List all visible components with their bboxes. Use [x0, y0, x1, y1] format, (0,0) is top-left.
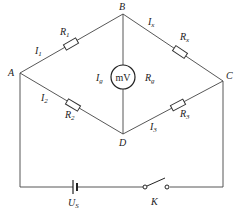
source-label: US	[68, 197, 79, 210]
wires	[20, 14, 223, 187]
resistor-rx	[173, 46, 188, 59]
rg-label: Rg	[144, 72, 155, 85]
i2-label: I2	[40, 92, 48, 105]
switch-k	[143, 178, 169, 189]
switch-label: K	[150, 196, 159, 207]
i1-label: I1	[34, 45, 42, 58]
ix-label: Ix	[147, 16, 155, 29]
r2-label: R2	[64, 109, 75, 122]
node-c-label: C	[226, 70, 233, 81]
bridge-circuit: mV A B C D R1 Rx R2 R3 Rg I1 Ix I2 I3 Ig…	[0, 0, 236, 215]
node-d-label: D	[118, 137, 127, 148]
node-a-label: A	[7, 67, 15, 78]
r1-label: R1	[59, 26, 70, 39]
ig-label: Ig	[95, 72, 103, 85]
i3-label: I3	[149, 121, 157, 134]
node-b-label: B	[119, 1, 125, 12]
resistor-r1	[63, 38, 78, 50]
battery	[73, 180, 77, 194]
meter-label: mV	[116, 72, 132, 83]
millivoltmeter: mV	[111, 65, 135, 89]
r3-label: R3	[179, 108, 190, 121]
rx-label: Rx	[179, 31, 190, 44]
